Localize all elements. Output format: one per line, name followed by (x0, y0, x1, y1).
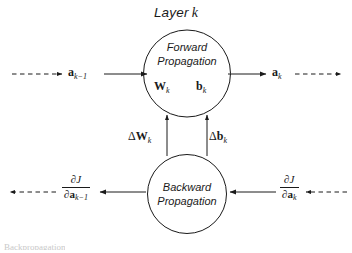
input-gradient-activation-subscript: k−1 (75, 193, 88, 202)
output-activation-label: ak (272, 66, 282, 78)
backward-node-label: Backward Propagation (142, 181, 232, 209)
backward-node-label-line1: Backward (142, 181, 232, 195)
delta-weight-label: ΔWk (128, 130, 151, 142)
delta-weight-subscript: k (148, 136, 152, 145)
input-gradient-cost-symbol: J (76, 173, 81, 185)
weight-parameter-label: Wk (154, 80, 170, 92)
bias-subscript: k (203, 86, 207, 95)
input-gradient-label: ∂J ∂ak−1 (62, 174, 90, 201)
input-gradient-fraction: ∂J ∂ak−1 (62, 174, 90, 200)
input-activation-label: ak−1 (68, 66, 87, 78)
output-gradient-fraction: ∂J ∂ak (280, 174, 299, 200)
diagram-title: Layerk (0, 6, 352, 20)
delta-weight-delta-symbol: Δ (128, 129, 136, 143)
bias-parameter-label: bk (196, 80, 206, 92)
output-activation-subscript: k (278, 72, 282, 81)
input-gradient-denominator: ∂ak−1 (62, 188, 90, 200)
input-activation-subscript: k−1 (74, 72, 87, 81)
title-text: Layer (154, 5, 189, 20)
bias-symbol: b (196, 79, 203, 93)
output-gradient-label: ∂J ∂ak (280, 174, 299, 201)
forward-node-label-line1: Forward (142, 41, 232, 55)
delta-bias-delta-symbol: Δ (209, 129, 217, 143)
title-layer-index: k (189, 5, 198, 20)
output-gradient-denominator: ∂ak (280, 188, 299, 200)
neural-network-layer-diagram: Layerk Forward Propagation Wk bk Backwar… (0, 0, 352, 253)
output-gradient-cost-symbol: J (290, 173, 295, 185)
weight-symbol: W (154, 79, 166, 93)
delta-bias-label: Δbk (209, 130, 227, 142)
input-gradient-numerator: ∂J (62, 174, 90, 186)
weight-subscript: k (166, 86, 170, 95)
forward-node-label: Forward Propagation (142, 41, 232, 69)
backward-node-label-line2: Propagation (142, 195, 232, 209)
bottom-cut-caption: Backpropagation (4, 243, 65, 250)
output-gradient-activation-subscript: k (293, 193, 297, 202)
delta-bias-subscript: k (223, 136, 227, 145)
forward-node-label-line2: Propagation (142, 55, 232, 69)
diagram-vector-layer (0, 0, 352, 253)
output-gradient-numerator: ∂J (280, 174, 299, 186)
delta-weight-symbol: W (136, 129, 148, 143)
